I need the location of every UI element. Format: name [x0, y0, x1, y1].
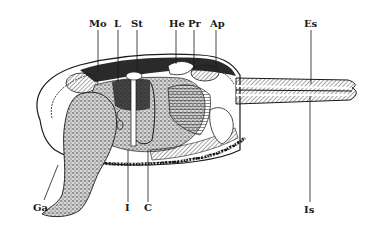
label-mo: Mo [89, 19, 107, 29]
label-i: I [125, 203, 130, 213]
label-ga: Ga [33, 203, 48, 213]
label-c: C [144, 203, 152, 213]
crystalline-style [131, 78, 136, 146]
figure-drawing [0, 0, 379, 235]
label-ap: Ap [210, 19, 225, 29]
posterior-adductor [191, 65, 219, 81]
label-st: St [131, 19, 143, 29]
label-is: Is [304, 205, 314, 215]
label-pr: Pr [188, 19, 201, 29]
label-es: Es [304, 19, 317, 29]
label-l: L [114, 19, 121, 29]
stomach [126, 72, 142, 80]
label-he: He [169, 19, 185, 29]
anatomical-figure: Mo L St He Pr Ap Es Ga I C Is [0, 0, 379, 235]
